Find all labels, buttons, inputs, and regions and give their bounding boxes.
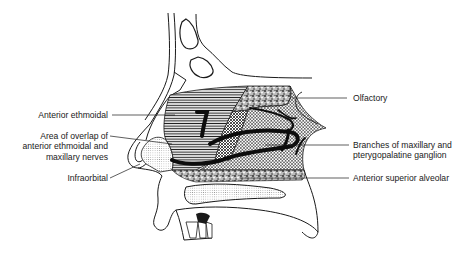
label-area-of-overlap: Area of overlap of anterior ethmoidal an… bbox=[0, 131, 108, 162]
teeth bbox=[186, 222, 212, 238]
label-anterior-superior-alveolar: Anterior superior alveolar bbox=[353, 173, 449, 183]
nasal-innervation-diagram: Anterior ethmoidal Area of overlap of an… bbox=[0, 0, 473, 254]
label-infraorbital: Infraorbital bbox=[0, 173, 108, 183]
frontal-sinus-upper bbox=[180, 19, 198, 49]
label-olfactory: Olfactory bbox=[353, 93, 387, 103]
frontal-sinus-lower bbox=[190, 57, 213, 78]
label-branches-maxillary: Branches of maxillary and pterygopalatin… bbox=[353, 140, 452, 161]
anatomical-drawing bbox=[0, 0, 473, 254]
label-anterior-ethmoidal: Anterior ethmoidal bbox=[0, 110, 108, 120]
anterior-superior-alveolar-region bbox=[172, 170, 305, 182]
hard-palate bbox=[184, 184, 285, 204]
